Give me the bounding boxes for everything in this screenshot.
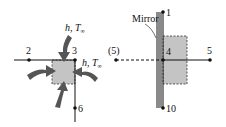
node-1-label: 1 <box>166 7 171 18</box>
arrow-top-icon <box>58 35 72 62</box>
node-5-image-label: (5) <box>108 45 120 57</box>
node-6 <box>73 106 77 110</box>
node-5-image <box>114 58 118 62</box>
node-3-label: 3 <box>72 45 77 56</box>
node-1 <box>161 10 165 14</box>
mirror-label: Mirror <box>132 13 159 24</box>
left-corner-node-diagram: 2 3 6 h, T∞ h, T∞ <box>14 22 102 122</box>
node-5 <box>208 58 212 62</box>
node-4-label: 4 <box>166 46 171 57</box>
arrow-right-icon <box>72 67 98 82</box>
right-mirror-diagram: Mirror 1 4 5 (5) 10 <box>108 7 212 114</box>
node-4 <box>161 58 165 62</box>
arrow-left-icon <box>27 65 56 80</box>
node-10-label: 10 <box>166 103 176 114</box>
arrow-bottom-icon <box>55 81 68 108</box>
node-3 <box>73 58 77 62</box>
node-2-label: 2 <box>26 45 31 56</box>
mirror-pointer <box>145 24 156 38</box>
control-volume-left <box>52 60 75 84</box>
diagram-canvas: 2 3 6 h, T∞ h, T∞ Mirror 1 4 5 (5) 10 <box>0 0 226 127</box>
convection-label-top: h, T∞ <box>65 22 85 34</box>
node-6-label: 6 <box>78 103 83 114</box>
convection-label-right: h, T∞ <box>82 57 102 69</box>
node-5-label: 5 <box>207 45 212 56</box>
node-2 <box>27 58 31 62</box>
node-10 <box>161 106 165 110</box>
